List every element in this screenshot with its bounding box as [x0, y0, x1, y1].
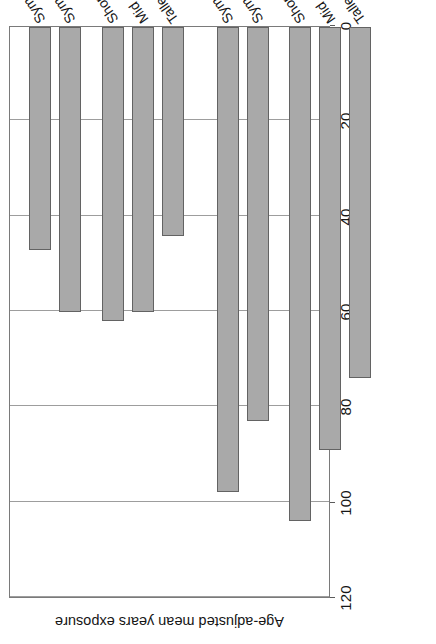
- cat-label-men-shortest: Shortest: [266, 0, 309, 27]
- bar-women-mid[interactable]: [132, 27, 154, 312]
- bar-women-shortest[interactable]: [102, 27, 124, 322]
- bar-women-tallest[interactable]: [162, 27, 184, 236]
- cat-label-women-shortest: Shortest: [79, 0, 122, 27]
- bar-row-women-shortest: [102, 27, 124, 597]
- cat-label-men-symptomatic: Symptomatic: [177, 0, 237, 27]
- bar-row-men-mid: [319, 27, 341, 597]
- cat-label-men-mid: Mid: [313, 0, 339, 27]
- y-axis-title: Age-adjusted mean years exposure: [9, 614, 330, 630]
- bar-row-men-tallest: [349, 27, 371, 597]
- cat-label-women-tallest: Tallest: [146, 0, 182, 27]
- bar-men-mid[interactable]: [319, 27, 341, 450]
- bar-row-women-symptomatic: [29, 27, 51, 597]
- cat-label-women-mid: Mid: [126, 0, 152, 27]
- axis-tick-6: [330, 25, 335, 26]
- bar-men-symptomatic[interactable]: [217, 27, 239, 493]
- bar-row-women-mid: [132, 27, 154, 597]
- bar-row-women-symptom-free: [59, 27, 81, 597]
- bar-women-symptom-free[interactable]: [59, 27, 81, 312]
- plot-area: [9, 26, 330, 598]
- bar-row-women-tallest: [162, 27, 184, 597]
- bar-women-symptomatic[interactable]: [29, 27, 51, 250]
- cat-label-women-symptomatic: Symptomatic: [0, 0, 49, 27]
- bar-row-men-shortest: [289, 27, 311, 597]
- bar-chart-figure: Age-adjusted mean years exposure 120 100…: [0, 0, 436, 644]
- bar-men-symptom-free[interactable]: [247, 27, 269, 421]
- axis-tick-0: [330, 597, 335, 598]
- bar-men-tallest[interactable]: [349, 27, 371, 379]
- bar-men-shortest[interactable]: [289, 27, 311, 521]
- rotated-figure-wrapper: Age-adjusted mean years exposure 120 100…: [0, 0, 436, 644]
- bar-row-men-symptom-free: [247, 27, 269, 597]
- bar-row-men-symptomatic: [217, 27, 239, 597]
